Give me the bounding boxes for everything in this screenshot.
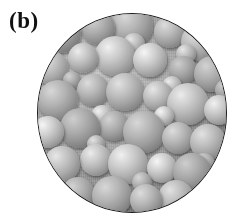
nanoparticle xyxy=(133,43,167,77)
nanoparticle xyxy=(95,36,135,76)
nanoparticle xyxy=(92,176,132,213)
panel-label: (b) xyxy=(9,8,39,34)
nanoparticle xyxy=(68,43,98,73)
nanoparticle xyxy=(106,73,144,111)
micrograph-canvas xyxy=(37,13,227,213)
nanoparticle xyxy=(130,184,162,213)
nanoparticle xyxy=(80,144,112,176)
figure-panel: (b) xyxy=(0,0,246,223)
nanoparticle xyxy=(158,180,194,213)
nanoparticle xyxy=(162,122,194,154)
nanoparticle xyxy=(61,177,95,211)
nanoparticle xyxy=(204,95,227,125)
circular-micrograph xyxy=(37,13,227,213)
nanoparticle xyxy=(77,74,109,106)
